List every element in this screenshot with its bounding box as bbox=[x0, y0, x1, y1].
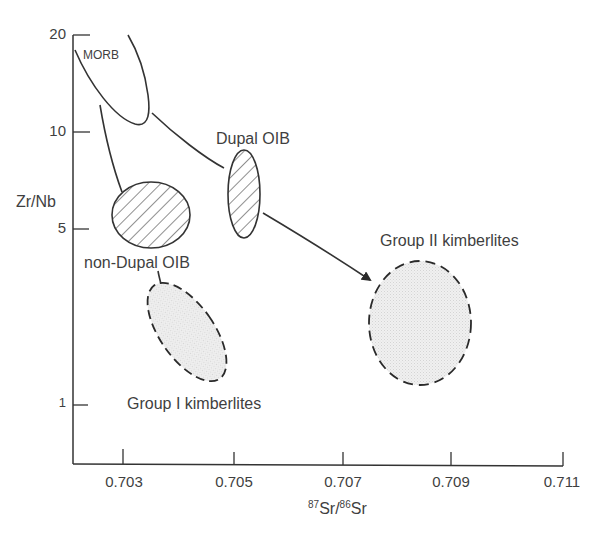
label-group2-kimberlites: Group II kimberlites bbox=[380, 232, 519, 250]
diagram-canvas bbox=[0, 0, 610, 552]
label-non-dupal-oib: non-Dupal OIB bbox=[84, 254, 190, 272]
x-tick-0705: 0.705 bbox=[215, 473, 253, 490]
dupal-oib-field bbox=[228, 150, 260, 238]
x-label-sr2: Sr bbox=[351, 500, 367, 517]
x-label-sup87: 87 bbox=[308, 499, 319, 510]
y-tick-5: 5 bbox=[36, 219, 66, 236]
y-tick-1: 1 bbox=[36, 395, 66, 410]
non-dupal-oib-field bbox=[112, 182, 190, 248]
morb-to-nondupal-line bbox=[100, 105, 122, 192]
x-label-sup86: 86 bbox=[340, 499, 351, 510]
morb-to-dupal-line bbox=[152, 113, 224, 168]
x-tick-0707: 0.707 bbox=[324, 473, 362, 490]
y-axis-label: Zr/Nb bbox=[16, 193, 56, 211]
y-tick-10: 10 bbox=[36, 122, 66, 139]
x-tick-0709: 0.709 bbox=[432, 473, 470, 490]
x-tick-0703: 0.703 bbox=[105, 473, 143, 490]
x-axis-line bbox=[73, 464, 563, 466]
label-dupal-oib: Dupal OIB bbox=[216, 130, 290, 148]
arrow-to-group2 bbox=[263, 213, 370, 280]
label-group1-kimberlites: Group I kimberlites bbox=[127, 395, 261, 413]
x-axis-label: 87Sr/86Sr bbox=[308, 499, 367, 518]
y-tick-20: 20 bbox=[36, 25, 66, 42]
x-label-sr1: Sr/ bbox=[319, 500, 339, 517]
group2-kimberlites-field bbox=[369, 261, 471, 385]
group1-kimberlites-field bbox=[132, 270, 242, 394]
x-tick-0711: 0.711 bbox=[544, 473, 580, 490]
label-morb: MORB bbox=[83, 48, 119, 62]
